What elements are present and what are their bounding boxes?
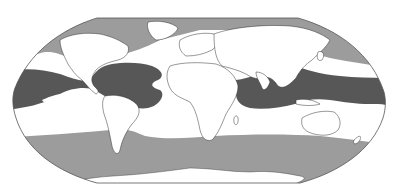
southern-light-zone — [0, 129, 401, 195]
japan — [317, 51, 323, 60]
world-map — [0, 0, 401, 195]
madagascar — [234, 116, 238, 125]
